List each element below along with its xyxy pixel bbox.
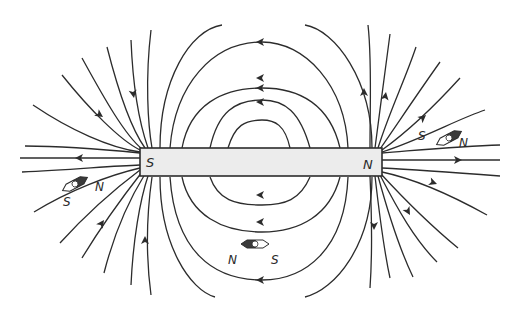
- compass-bottom-north-label: N: [228, 253, 237, 267]
- compass-left-south-label: S: [63, 195, 71, 209]
- compass-bottom-south-label: S: [271, 253, 279, 267]
- compass-left-north-label: N: [95, 180, 104, 194]
- compass-right-north-label: N: [459, 136, 468, 150]
- bar-magnet-field-diagram: S N N S N S N S: [0, 0, 520, 311]
- bar-magnet: S N: [140, 148, 382, 176]
- magnet-south-label: S: [146, 155, 154, 170]
- compass-needle-bottom: [241, 240, 269, 248]
- field-lines-left-fan: [20, 30, 152, 295]
- magnet-body: [140, 148, 382, 176]
- field-lines-top-arcs: [160, 25, 372, 148]
- magnet-north-label: N: [363, 157, 373, 172]
- field-lines-bottom-arcs: [160, 177, 372, 297]
- compass-right-south-label: S: [418, 129, 426, 143]
